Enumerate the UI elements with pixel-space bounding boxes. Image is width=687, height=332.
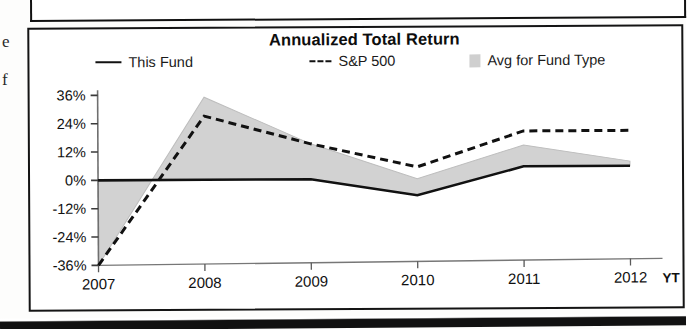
chart-panel: Annualized Total Return This Fund S&P 50… [27, 24, 684, 311]
plot-area: 36%24%12%0%-12%-24%-36% 2007200820092010… [29, 26, 682, 309]
y-tick-label: -12% [52, 201, 86, 217]
x-tick-label: 2012 [614, 268, 647, 285]
x-tick-label: 2011 [508, 270, 540, 287]
x-axis-unit-label: YT [663, 270, 681, 285]
y-tick-label: -36% [53, 257, 87, 273]
sp500-line [98, 114, 631, 265]
y-tick-label: -24% [52, 229, 86, 245]
x-tick-label: 2007 [82, 275, 115, 292]
margin-text-fragment-1: e [2, 32, 10, 52]
y-tick-label: 0% [65, 172, 86, 188]
x-tick-label: 2008 [188, 274, 221, 291]
y-tick-label: 36% [57, 87, 86, 103]
x-tick-label: 2010 [401, 271, 434, 288]
margin-text-fragment-2: f [2, 70, 8, 90]
y-axis-tick-labels: 36%24%12%0%-12%-24%-36% [52, 87, 87, 273]
x-tick-label: 2009 [295, 273, 328, 290]
y-tick-label: 24% [57, 116, 86, 132]
upper-panel-fragment [30, 0, 686, 22]
x-axis-tick-labels: 200720082009201020112012YT [82, 268, 681, 292]
y-tick-label: 12% [57, 144, 86, 160]
chart-svg: 36%24%12%0%-12%-24%-36% 2007200820092010… [29, 26, 686, 313]
